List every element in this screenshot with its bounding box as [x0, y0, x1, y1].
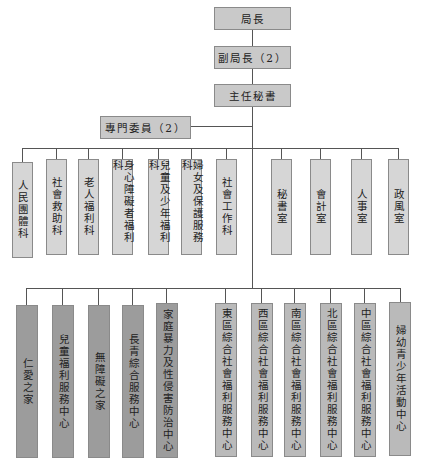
- drop-line: [22, 148, 23, 162]
- drop-line: [320, 148, 321, 159]
- node-label: 婦女及保護服務科: [181, 160, 202, 254]
- node-label: 東區綜合社會福利服務中心: [221, 308, 232, 452]
- drop-line: [56, 148, 57, 159]
- division-node: 人民團體科: [12, 162, 33, 258]
- node-label: 家庭暴力及性侵害防治中心: [162, 309, 173, 453]
- node-label: 無障礙之家: [94, 352, 105, 412]
- division-node: 人事室: [351, 159, 372, 255]
- node-label: 中區綜合社會福利服務中心: [360, 308, 371, 452]
- drop-line: [398, 148, 399, 159]
- node-label: 主任秘書: [229, 88, 277, 103]
- division-node: 兒童及少年福利科: [148, 159, 169, 255]
- drop-line: [158, 148, 159, 159]
- node-label: 局長: [241, 11, 265, 26]
- division-node: 老人福利科: [78, 159, 99, 255]
- node-label: 婦幼青少年活動中心: [395, 325, 406, 433]
- node-label: 兒童福利服務中心: [58, 334, 69, 430]
- unit-bus: [26, 288, 401, 289]
- node-committee: 專門委員（2）: [100, 116, 191, 139]
- drop-line: [62, 288, 63, 305]
- unit-node: 南區綜合社會福利服務中心: [284, 303, 306, 457]
- division-bus: [22, 148, 399, 149]
- node-label: 人民團體科: [17, 180, 28, 240]
- unit-node: 兒童福利服務中心: [52, 305, 74, 458]
- node-label: 社會救助科: [51, 177, 62, 237]
- node-label: 老人福利科: [83, 177, 94, 237]
- drop-line: [122, 148, 123, 159]
- unit-node: 北區綜合社會福利服務中心: [320, 303, 342, 457]
- division-node: 社會工作科: [216, 159, 237, 255]
- unit-node: 無障礙之家: [88, 305, 110, 458]
- division-node: 政風室: [388, 159, 409, 255]
- node-label: 人事室: [356, 189, 367, 225]
- division-node: 婦女及保護服務科: [181, 159, 202, 255]
- unit-node: 長青綜合服務中心: [122, 305, 144, 458]
- node-label: 秘書室: [276, 189, 287, 225]
- unit-node: 家庭暴力及性侵害防治中心: [156, 303, 178, 458]
- drop-line: [132, 288, 133, 305]
- node-label: 副局長（2）: [218, 50, 287, 65]
- node-label: 仁愛之家: [22, 358, 33, 406]
- unit-node: 婦幼青少年活動中心: [389, 302, 411, 456]
- drop-line: [281, 148, 282, 159]
- drop-line: [88, 148, 89, 159]
- unit-node: 東區綜合社會福利服務中心: [215, 303, 237, 457]
- node-label: 長青綜合服務中心: [128, 334, 139, 430]
- drop-line: [26, 288, 27, 305]
- node-label: 專門委員（2）: [105, 120, 186, 135]
- node-label: 西區綜合社會福利服務中心: [257, 308, 268, 452]
- committee-connector: [190, 126, 253, 127]
- node-director: 局長: [214, 7, 291, 30]
- unit-node: 西區綜合社會福利服務中心: [251, 303, 273, 457]
- drop-line: [98, 288, 99, 305]
- unit-node: 仁愛之家: [16, 305, 38, 458]
- division-node: 身心障礙者福利科: [112, 159, 133, 255]
- unit-node: 中區綜合社會福利服務中心: [354, 303, 376, 457]
- node-deputy-director: 副局長（2）: [214, 46, 291, 69]
- node-label: 身心障礙者福利科: [112, 160, 133, 254]
- division-node: 秘書室: [271, 159, 292, 255]
- node-label: 南區綜合社會福利服務中心: [290, 308, 301, 452]
- node-label: 政風室: [393, 189, 404, 225]
- division-node: 社會救助科: [46, 159, 67, 255]
- node-label: 兒童及少年福利科: [148, 160, 169, 254]
- node-label: 會計室: [315, 189, 326, 225]
- drop-line: [361, 148, 362, 159]
- drop-line: [226, 148, 227, 159]
- drop-line: [191, 148, 192, 159]
- node-chief-secretary: 主任秘書: [214, 84, 291, 107]
- node-label: 北區綜合社會福利服務中心: [326, 308, 337, 452]
- division-node: 會計室: [310, 159, 331, 255]
- node-label: 社會工作科: [221, 177, 232, 237]
